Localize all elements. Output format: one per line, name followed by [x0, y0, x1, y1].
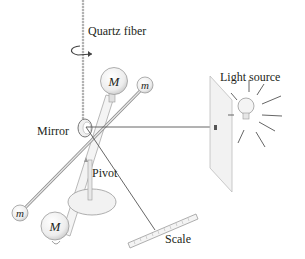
large-ball-lower: M — [41, 212, 69, 244]
svg-text:M: M — [49, 219, 62, 234]
rotation-arrow-icon — [71, 46, 92, 57]
screen-panel — [210, 76, 232, 192]
light-bulb-icon — [228, 80, 282, 147]
svg-text:M: M — [108, 74, 121, 89]
label-light-source: Light source — [220, 70, 280, 85]
label-mirror: Mirror — [37, 124, 69, 139]
label-quartz-fiber: Quartz fiber — [88, 24, 146, 39]
small-ball-lower: m — [12, 205, 28, 221]
label-scale: Scale — [165, 232, 191, 247]
large-ball-upper: M — [101, 68, 128, 95]
small-ball-upper: m — [137, 77, 153, 93]
mirror — [78, 119, 92, 137]
label-pivot: Pivot — [92, 166, 117, 181]
svg-text:m: m — [141, 79, 149, 91]
svg-text:m: m — [16, 207, 24, 219]
